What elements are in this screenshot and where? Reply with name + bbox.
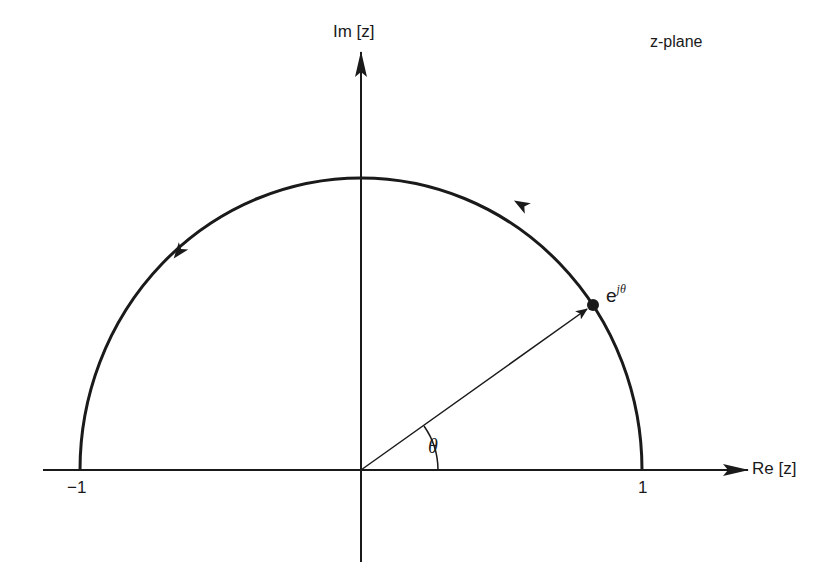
point-marker [587,299,599,311]
arc-arrow-right-icon [511,195,531,213]
point-label-base: e [606,285,617,306]
point-label: ejθ [606,284,626,307]
z-plane-diagram [0,0,838,585]
angle-label: θ [428,435,438,458]
plane-title: z-plane [650,33,702,51]
imag-axis-label: Im [z] [333,22,375,42]
tick-pos-one: 1 [638,478,647,498]
tick-neg-one: −1 [67,478,86,498]
real-axis-label: Re [z] [752,459,796,479]
radius-vector [361,309,587,470]
point-label-exponent: jθ [617,282,626,296]
